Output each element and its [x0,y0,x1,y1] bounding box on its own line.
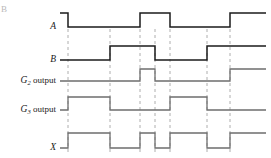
signal-label-b: B [50,54,56,64]
figure-corner-mark: B [1,4,7,14]
signal-label-g2-output: G2 output [21,75,57,86]
signal-label-a: A [49,21,56,31]
timing-diagram: B ABG2 outputG3 outputX [0,0,271,158]
signal-label-x: X [49,142,57,152]
signal-label-g3-output: G3 output [21,104,57,115]
